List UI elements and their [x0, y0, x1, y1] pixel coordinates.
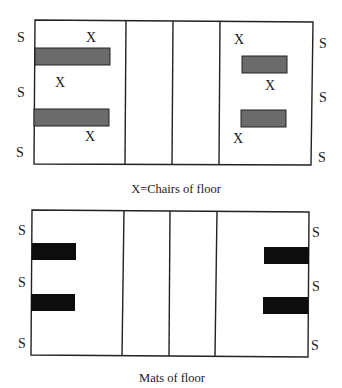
- chair-marker: X: [55, 75, 65, 90]
- floor-divider: [215, 211, 217, 356]
- chairs-floor-diagram: X X X X X X S S S S S S X=Chairs of floo…: [16, 20, 327, 196]
- chair-marker: X: [233, 131, 243, 146]
- side-label: S: [17, 85, 25, 100]
- diagram-caption: X=Chairs of floor: [131, 182, 222, 196]
- floor-divider: [172, 21, 173, 165]
- side-label: S: [312, 279, 320, 294]
- side-label: S: [17, 30, 25, 45]
- side-label: S: [18, 223, 26, 238]
- floor-divider: [219, 21, 220, 165]
- side-label: S: [319, 90, 327, 105]
- chair-marker: X: [265, 78, 275, 93]
- diagram-caption: Mats of floor: [139, 371, 206, 385]
- floor-divider: [122, 210, 124, 356]
- mats-floor-diagram: S S S S S S Mats of floor: [18, 210, 320, 385]
- side-label: S: [319, 36, 327, 51]
- floor-divider: [125, 20, 126, 164]
- side-label: S: [318, 150, 326, 165]
- side-label: S: [16, 145, 24, 160]
- mat: [32, 243, 76, 260]
- mat: [34, 109, 109, 126]
- mat: [241, 110, 286, 127]
- chair-marker: X: [85, 129, 95, 144]
- side-label: S: [18, 275, 26, 290]
- side-label: S: [312, 225, 320, 240]
- side-label: S: [18, 336, 26, 351]
- mat: [35, 48, 110, 65]
- side-label: S: [311, 338, 319, 353]
- chair-marker: X: [86, 30, 96, 45]
- floor-diagrams: X X X X X X S S S S S S X=Chairs of floo…: [0, 0, 342, 388]
- floor-divider: [169, 211, 170, 356]
- mat: [242, 56, 287, 73]
- chair-marker: X: [234, 32, 244, 47]
- mat: [31, 294, 75, 311]
- mat: [263, 297, 308, 314]
- mat: [264, 247, 309, 264]
